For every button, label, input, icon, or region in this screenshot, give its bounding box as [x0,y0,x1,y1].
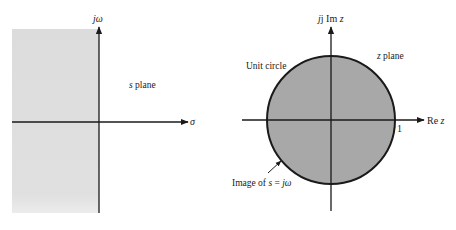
image-of-jw-label: Image of s = jω [232,178,292,188]
s-plane-title: s plane [129,80,156,90]
z-plane-title: z plane [376,51,404,61]
mapping-diagram: jω σ s plane jj Im z Re z 1 z plane Unit… [0,0,456,230]
s-plane: jω σ s plane [12,13,196,213]
sigma-axis-label: σ [190,116,196,127]
im-z-axis-label: jj Im z [316,13,344,24]
unit-circle-label: Unit circle [246,61,286,71]
image-arrow [268,161,281,173]
re-z-axis-label: Re z [427,115,445,126]
unit-tick-label: 1 [397,123,402,134]
left-half-plane-shading [12,29,99,213]
jw-axis-label: jω [91,13,103,24]
z-plane: jj Im z Re z 1 z plane Unit circle Image… [232,13,445,211]
